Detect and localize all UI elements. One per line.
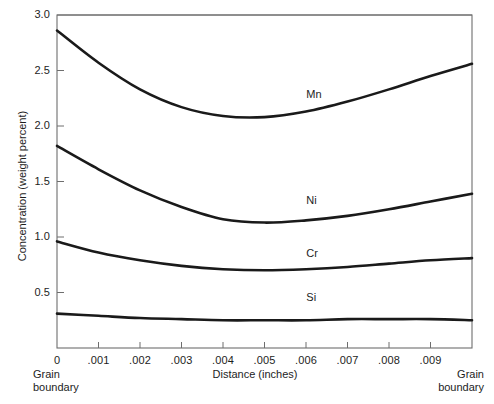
series-label-mn: Mn [306, 88, 321, 100]
x-axis-title: Distance (inches) [193, 368, 317, 380]
x-tick-label: .001 [77, 354, 121, 366]
plot-canvas [0, 0, 494, 404]
series-label-cr: Cr [306, 247, 318, 259]
x-tick-label: 0 [35, 354, 79, 366]
y-axis-ticks [57, 15, 472, 293]
y-tick-label: 3.0 [16, 8, 50, 20]
x-tick-label: .009 [409, 354, 453, 366]
curve-cr [57, 241, 472, 270]
x-tick-label: .003 [160, 354, 204, 366]
x-tick-label: .004 [201, 354, 245, 366]
y-tick-label: 2.5 [16, 64, 50, 76]
curve-mn [57, 31, 472, 118]
grain-boundary-right-line1: Grain [438, 368, 484, 381]
series-label-ni: Ni [306, 194, 316, 206]
x-tick-label: .008 [367, 354, 411, 366]
x-tick-label: .005 [243, 354, 287, 366]
y-axis-title: Concentration (weight percent) [16, 96, 28, 276]
chart-figure: 0.51.01.52.02.53.0 0.001.002.003.004.005… [0, 0, 494, 404]
x-tick-label: .007 [326, 354, 370, 366]
grain-boundary-right-line2: boundary [438, 381, 484, 394]
y-tick-label: 0.5 [16, 286, 50, 298]
x-tick-label: .002 [118, 354, 162, 366]
curve-ni [57, 146, 472, 223]
grain-boundary-left-line2: boundary [33, 381, 79, 394]
grain-boundary-left-line1: Grain [33, 368, 79, 381]
grain-boundary-left-note: Grain boundary [33, 368, 79, 394]
series-label-si: Si [306, 291, 316, 303]
curve-si [57, 314, 472, 321]
x-axis-ticks [99, 342, 431, 348]
data-curves [57, 31, 472, 321]
grain-boundary-right-note: Grain boundary [438, 368, 484, 394]
x-tick-label: .006 [284, 354, 328, 366]
